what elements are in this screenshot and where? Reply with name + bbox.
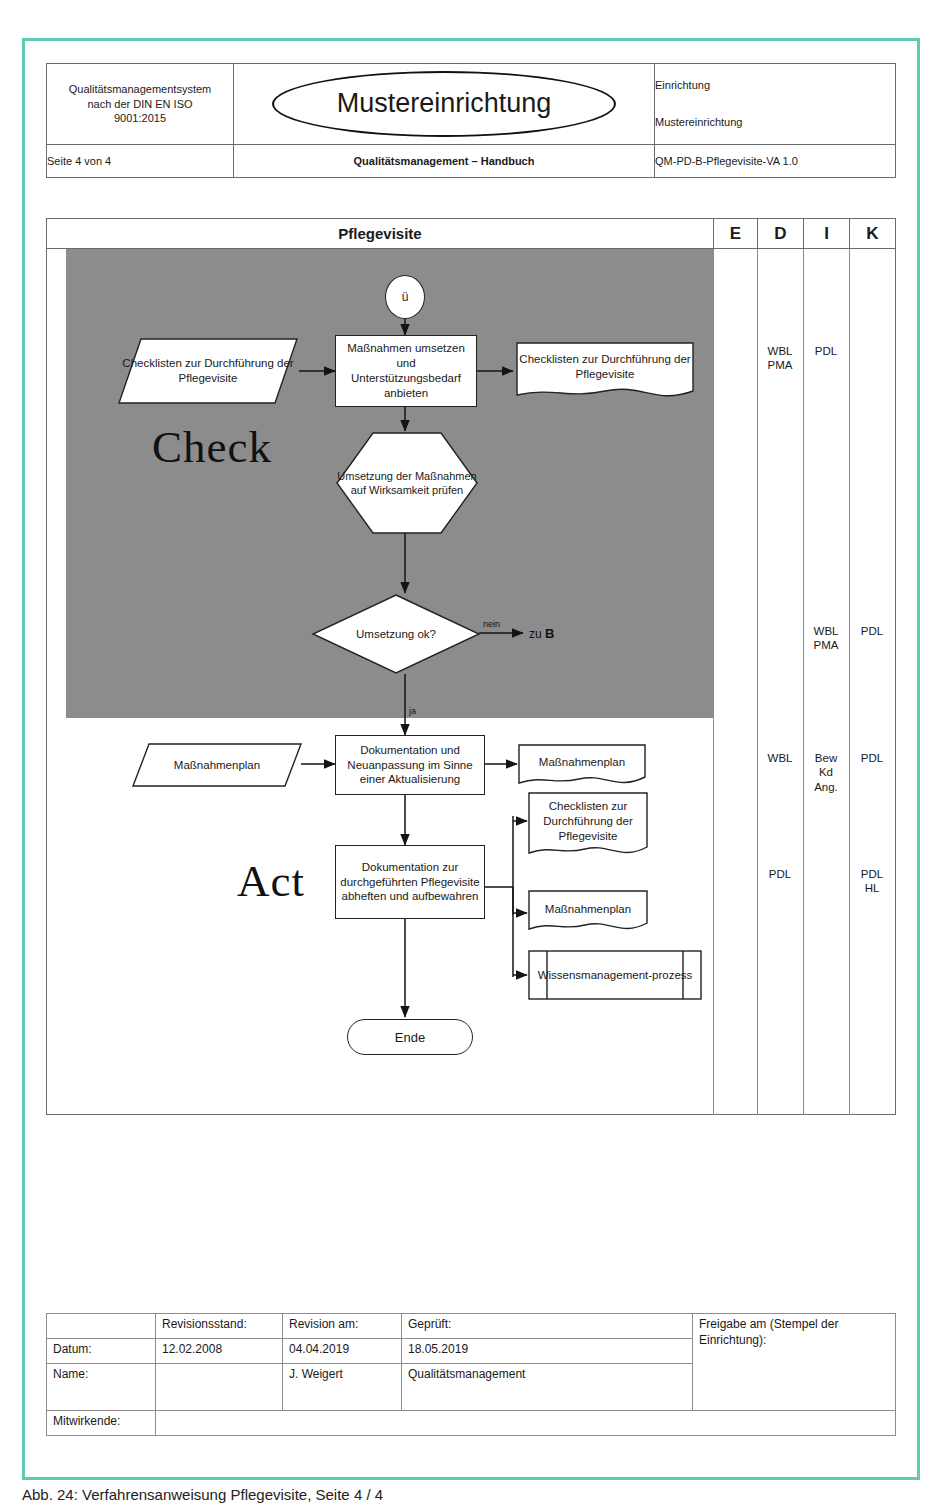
node-massnahmenplan-input: Maßnahmenplan [131,742,303,788]
node-wissensmanagement-label: Wissensmanagement-prozess [527,949,703,1001]
footer-head-geprueft: Geprüft: [402,1314,693,1339]
qms-line-3: 9001:2015 [47,111,233,126]
edge-label-ja: ja [409,706,416,716]
edge-label-zu-b: zu B [529,626,554,641]
node-checklists-input-label: Checklisten zur Durchführung der Pflegev… [117,337,299,405]
node-umsetzung-ok-label: Umsetzung ok? [311,593,481,675]
revision-table: Revisionsstand: Revision am: Geprüft: Fr… [46,1313,896,1436]
responsibility-k-3: PDL [849,751,895,765]
column-body-d [757,249,803,1115]
column-header-k: K [849,219,895,248]
footer-row-name-revisionsstand [156,1364,283,1411]
document-title: Qualitätsmanagement – Handbuch [234,145,655,178]
node-massnahmen-umsetzen: Maßnahmen umsetzen und Unterstützungsbed… [335,335,477,407]
facility-name: Mustereinrichtung [655,115,895,130]
node-checklisten-output-2: Checklisten zur Durchführung der Pflegev… [527,791,649,863]
node-wirksamkeit-label: Umsetzung der Maßnahmen auf Wirksamkeit … [335,431,479,535]
node-checklists-output-label: Checklisten zur Durchführung der Pflegev… [515,341,695,393]
footer-row-name-revision-am: J. Weigert [283,1364,402,1411]
column-header-e: E [713,219,757,248]
facility-label: Einrichtung [655,78,895,93]
responsibility-k-2: PDL [849,624,895,638]
qms-line-2: nach der DIN EN ISO [47,97,233,112]
node-connector-top: ü [385,275,425,319]
footer-row-name-geprueft: Qualitätsmanagement [402,1364,693,1411]
node-checklists-input: Checklisten zur Durchführung der Pflegev… [117,337,299,405]
responsibility-d-4: PDL [757,867,803,881]
node-dokumentation-neuanpassung: Dokumentation und Neuanpassung im Sinne … [335,735,485,795]
footer-row-datum-revision-am: 04.04.2019 [283,1339,402,1364]
column-header-d: D [757,219,803,248]
node-massnahmenplan-output-1: Maßnahmenplan [517,743,647,789]
document-code: QM-PD-B-Pflegevisite-VA 1.0 [655,145,896,178]
header-facility-cell: Einrichtung Mustereinrichtung [655,64,896,145]
footer-head-revision-am: Revision am: [283,1314,402,1339]
figure-caption: Abb. 24: Verfahrensanweisung Pflegevisit… [22,1486,383,1503]
header-qms-cell: Qualitätsmanagementsystem nach der DIN E… [47,64,234,145]
responsibility-d-3: WBL [757,751,803,765]
stage-label-act: Act [237,855,305,907]
flow-title: Pflegevisite [47,219,713,248]
node-massnahmenplan-input-label: Maßnahmenplan [131,742,303,788]
qms-line-1: Qualitätsmanagementsystem [47,82,233,97]
node-checklists-output: Checklisten zur Durchführung der Pflegev… [515,341,695,403]
footer-freigabe-cell: Freigabe am (Stempel der Einrichtung): [693,1314,896,1411]
edge-label-nein: nein [483,619,500,629]
node-massnahmenplan-output-1-label: Maßnahmenplan [517,743,647,782]
responsibility-i-1: PDL [803,344,849,358]
responsibility-i-2: WBL PMA [803,624,849,653]
node-checklisten-output-2-label: Checklisten zur Durchführung der Pflegev… [527,791,649,851]
document-header: Qualitätsmanagementsystem nach der DIN E… [46,63,896,178]
responsibility-k-4: PDL HL [849,867,895,896]
footer-row-datum-geprueft: 18.05.2019 [402,1339,693,1364]
node-ende: Ende [347,1019,473,1055]
page-info: Seite 4 von 4 [47,145,234,178]
column-body-k [849,249,895,1115]
facility-logo: Mustereinrichtung [272,71,616,137]
footer-row-name-label: Name: [47,1364,156,1411]
footer-row-datum-label: Datum: [47,1339,156,1364]
flowchart-panel: Pflegevisite E D I K WBL PMA PDL WBL PMA… [46,218,896,1115]
footer-head-revisionsstand: Revisionsstand: [156,1314,283,1339]
footer-row-mitwirkende-label: Mitwirkende: [47,1411,156,1436]
node-wirksamkeit-pruefen: Umsetzung der Maßnahmen auf Wirksamkeit … [335,431,479,535]
stage-label-check: Check [152,421,272,473]
footer-row-datum-revisionsstand: 12.02.2008 [156,1339,283,1364]
node-massnahmenplan-output-2: Maßnahmenplan [527,889,649,937]
table-row: Mitwirkende: [47,1411,896,1436]
node-umsetzung-ok: Umsetzung ok? [311,593,481,675]
node-massnahmenplan-output-2-label: Maßnahmenplan [527,889,649,929]
responsibility-d-1: WBL PMA [757,344,803,373]
node-dokumentation-abheften: Dokumentation zur durchgeführten Pflegev… [335,845,485,919]
column-header-i: I [803,219,849,248]
header-logo-cell: Mustereinrichtung [234,64,655,145]
node-wissensmanagement-prozess: Wissensmanagement-prozess [527,949,703,1001]
footer-head-blank [47,1314,156,1339]
footer-row-mitwirkende-value [156,1411,896,1436]
column-body-e [713,249,757,1115]
table-row: Revisionsstand: Revision am: Geprüft: Fr… [47,1314,896,1339]
responsibility-i-3: Bew Kd Ang. [803,751,849,794]
column-body-i [803,249,849,1115]
